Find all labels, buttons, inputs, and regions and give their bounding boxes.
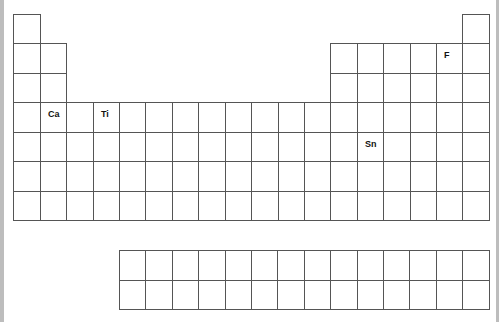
element-cell — [304, 102, 331, 133]
element-cell — [66, 102, 94, 133]
element-cell — [330, 43, 358, 74]
element-cell — [13, 161, 41, 192]
element-cell — [225, 102, 252, 133]
element-cell — [172, 161, 199, 192]
element-cell — [357, 102, 384, 133]
element-cell — [172, 191, 199, 221]
element-cell — [410, 191, 437, 221]
element-cell — [462, 161, 490, 192]
f-block-cell — [357, 280, 384, 310]
element-cell — [330, 102, 358, 133]
element-cell: Sn — [357, 132, 384, 162]
element-cell — [410, 73, 437, 103]
element-cell — [357, 161, 384, 192]
element-cell — [410, 102, 437, 133]
element-cell — [13, 191, 41, 221]
element-cell — [198, 161, 226, 192]
element-cell — [93, 132, 120, 162]
f-block-cell — [383, 280, 410, 310]
element-cell — [66, 132, 94, 162]
left-edge-bar — [0, 0, 4, 322]
f-block-cell — [277, 250, 305, 281]
element-cell — [225, 191, 252, 221]
element-cell — [172, 102, 199, 133]
f-block-cell — [436, 250, 463, 281]
element-cell — [198, 132, 226, 162]
element-cell — [251, 191, 279, 221]
element-cell — [119, 161, 146, 192]
element-cell — [410, 132, 437, 162]
element-cell — [251, 132, 279, 162]
element-symbol: Ti — [101, 110, 109, 119]
element-cell — [436, 102, 463, 133]
element-cell — [13, 102, 41, 133]
element-cell — [383, 102, 411, 133]
f-block-cell — [357, 250, 384, 281]
element-cell — [93, 161, 120, 192]
element-cell — [278, 161, 305, 192]
element-symbol: F — [444, 51, 450, 60]
element-cell — [383, 161, 411, 192]
element-cell — [357, 73, 384, 103]
f-block-cell — [436, 280, 463, 310]
element-cell — [436, 73, 463, 103]
element-cell — [66, 191, 94, 221]
f-block-cell — [225, 280, 252, 310]
f-block-cell — [304, 250, 331, 281]
element-cell — [357, 43, 384, 74]
f-block-cell — [277, 280, 305, 310]
element-cell — [40, 191, 67, 221]
f-block-cell — [330, 250, 358, 281]
f-block-cell — [304, 280, 331, 310]
element-cell — [40, 43, 67, 74]
element-cell — [330, 73, 358, 103]
element-cell — [93, 191, 120, 221]
element-cell — [225, 132, 252, 162]
element-cell — [462, 132, 490, 162]
f-block-cell — [198, 250, 226, 281]
f-block-cell — [409, 250, 437, 281]
element-cell — [462, 14, 490, 44]
element-cell — [119, 102, 146, 133]
element-cell — [119, 132, 146, 162]
element-cell — [251, 161, 279, 192]
element-cell — [436, 191, 463, 221]
element-cell — [13, 132, 41, 162]
element-cell — [462, 191, 490, 221]
f-block-cell — [145, 250, 173, 281]
element-cell — [304, 191, 331, 221]
f-block-cell — [172, 250, 199, 281]
element-cell — [304, 161, 331, 192]
element-cell — [119, 191, 146, 221]
element-cell — [145, 161, 173, 192]
f-block-cell — [383, 250, 410, 281]
element-cell — [330, 132, 358, 162]
f-block-cell — [251, 280, 278, 310]
element-cell — [383, 191, 411, 221]
element-cell: F — [436, 43, 463, 74]
element-cell — [251, 102, 279, 133]
f-block-cell — [225, 250, 252, 281]
element-cell — [278, 191, 305, 221]
f-block-cell — [119, 280, 146, 310]
element-cell — [410, 161, 437, 192]
f-block-cell — [198, 280, 226, 310]
element-symbol: Sn — [365, 140, 377, 149]
element-cell — [462, 73, 490, 103]
element-cell — [410, 43, 437, 74]
element-cell — [357, 191, 384, 221]
f-block-cell — [330, 280, 358, 310]
element-cell — [304, 132, 331, 162]
f-block-cell — [409, 280, 437, 310]
element-cell — [383, 132, 411, 162]
element-cell — [13, 14, 41, 44]
f-block-cell — [462, 250, 490, 281]
element-cell — [40, 161, 67, 192]
element-cell — [145, 102, 173, 133]
element-symbol: Ca — [48, 110, 60, 119]
element-cell: Ca — [40, 102, 67, 133]
element-cell — [330, 191, 358, 221]
f-block-cell — [172, 280, 199, 310]
element-cell — [145, 132, 173, 162]
element-cell — [436, 161, 463, 192]
